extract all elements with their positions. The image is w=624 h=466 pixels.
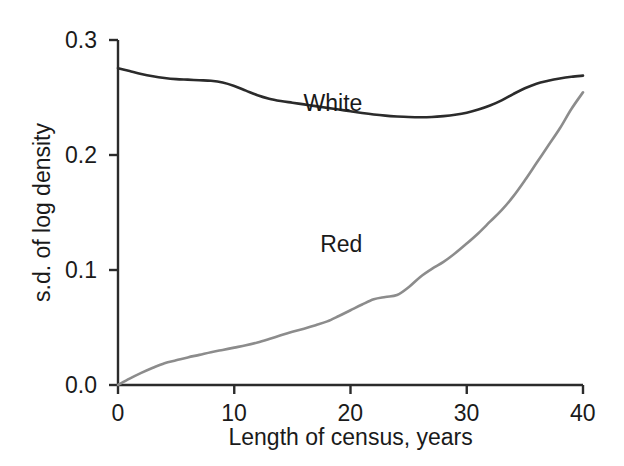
x-tick-label-4: 40	[570, 402, 596, 425]
x-tick-label-0: 0	[112, 402, 125, 425]
y-tick-label-3: 0.3	[65, 29, 97, 52]
x-tick-label-3: 30	[454, 402, 480, 425]
x-axis-title: Length of census, years	[229, 426, 473, 449]
y-axis-ticks	[109, 40, 118, 385]
y-axis-title: s.d. of log density	[31, 123, 54, 302]
y-tick-label-0: 0.0	[65, 374, 97, 397]
chart-figure: 0.0 0.1 0.2 0.3 0 10 20 30 40 Length of …	[0, 0, 624, 466]
x-tick-label-1: 10	[221, 402, 247, 425]
series-annotation-red: Red	[320, 233, 362, 256]
y-tick-label-1: 0.1	[65, 259, 97, 282]
y-tick-label-2: 0.2	[65, 144, 97, 167]
x-axis-ticks	[118, 385, 583, 394]
x-tick-label-2: 20	[338, 402, 364, 425]
series-annotation-white: White	[304, 92, 363, 115]
